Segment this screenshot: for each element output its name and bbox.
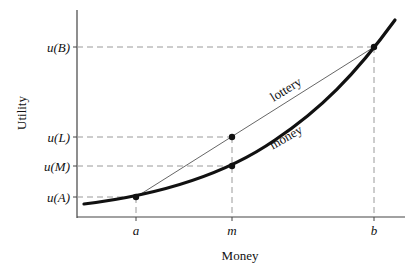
guide-lines: [77, 47, 374, 217]
xtick-m: m: [227, 223, 236, 238]
point-A: [133, 194, 139, 200]
point-M: [229, 163, 235, 169]
utility-diagram: u(B) u(L) u(M) u(A) a m b Money Utility …: [0, 0, 419, 277]
ytick-uB: u(B): [47, 40, 70, 55]
money-curve: [84, 20, 395, 204]
money-label: money: [267, 122, 306, 153]
ytick-uM: u(M): [44, 159, 70, 174]
point-L: [229, 134, 235, 140]
xtick-a: a: [133, 223, 140, 238]
ytick-uL: u(L): [48, 130, 70, 145]
lottery-label: lottery: [267, 74, 304, 105]
ytick-uA: u(A): [47, 190, 70, 205]
ticks: [73, 47, 374, 221]
point-B: [371, 44, 377, 50]
x-axis-label: Money: [222, 248, 259, 263]
xtick-b: b: [371, 223, 378, 238]
lottery-line: [136, 47, 374, 197]
y-axis-label: Utility: [14, 96, 29, 130]
